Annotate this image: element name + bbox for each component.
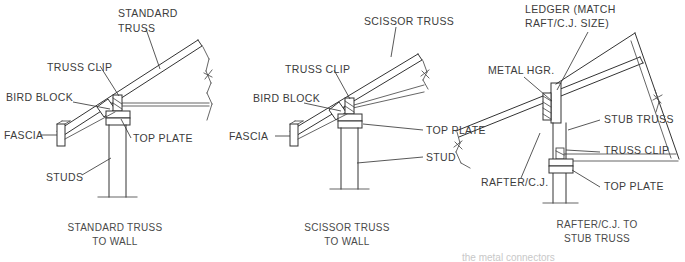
fascia-shape bbox=[57, 121, 70, 146]
label-scissor-truss: SCISSOR TRUSS bbox=[364, 15, 454, 27]
label-bird-block: BIRD BLOCK bbox=[253, 92, 320, 104]
truss-clip-shape bbox=[556, 148, 564, 159]
scissor-truss-break-line bbox=[421, 61, 429, 89]
label-ledger-line1: LEDGER (MATCH bbox=[525, 3, 616, 15]
caption-standard-truss-line2: TO WALL bbox=[92, 236, 138, 247]
label-stud: STUD bbox=[426, 151, 456, 163]
caption-scissor-truss-line2: TO WALL bbox=[324, 236, 370, 247]
label-top-plate: TOP PLATE bbox=[604, 180, 664, 192]
label-truss-clip: TRUSS CLIP bbox=[285, 63, 350, 75]
panel-standard-truss-to-wall: STANDARD TRUSS TRUSS CLIP BIRD BLOCK FAS… bbox=[4, 7, 212, 247]
clipped-footer-text: the metal connectors bbox=[462, 252, 555, 262]
label-stub-truss: STUB TRUSS bbox=[604, 113, 674, 125]
wall-stud-shape bbox=[330, 128, 369, 189]
label-truss-clip: TRUSS CLIP bbox=[47, 61, 112, 73]
label-metal-hgr: METAL HGR. bbox=[488, 64, 555, 76]
caption-rafter-cj-line2: STUB TRUSS bbox=[564, 233, 630, 244]
top-plate-shape bbox=[549, 159, 573, 173]
panel-rafter-cj-to-stub-truss: LEDGER (MATCH RAFT/C.J. SIZE) METAL HGR.… bbox=[454, 3, 679, 244]
label-fascia: FASCIA bbox=[229, 130, 268, 142]
detail-drawing-canvas: STANDARD TRUSS TRUSS CLIP BIRD BLOCK FAS… bbox=[0, 0, 685, 262]
footer-clipped-line: the metal connectors bbox=[462, 252, 555, 262]
top-plate-shape bbox=[106, 111, 130, 125]
rafter-break-line bbox=[454, 132, 470, 168]
top-plate-shape bbox=[338, 114, 362, 128]
label-truss-clip: TRUSS CLIP bbox=[604, 144, 669, 156]
label-ledger-line2: RAFT/C.J. SIZE) bbox=[525, 17, 609, 29]
label-standard-truss-line2: TRUSS bbox=[118, 22, 155, 34]
standard-truss-break-line bbox=[203, 47, 212, 120]
label-fascia: FASCIA bbox=[4, 129, 43, 141]
caption-standard-truss-line1: STANDARD TRUSS bbox=[68, 222, 163, 233]
label-studs: STUDS bbox=[46, 171, 83, 183]
panel-scissor-truss-to-wall: SCISSOR TRUSS TRUSS CLIP BIRD BLOCK FASC… bbox=[229, 15, 486, 247]
truss-clip-shape bbox=[113, 95, 122, 111]
label-top-plate: TOP PLATE bbox=[133, 132, 193, 144]
wall-studs-shape bbox=[98, 125, 137, 197]
caption-scissor-truss-line1: SCISSOR TRUSS bbox=[304, 222, 389, 233]
label-standard-truss-line1: STANDARD bbox=[118, 7, 178, 19]
truss-clip-shape bbox=[345, 98, 354, 114]
caption-rafter-cj-line1: RAFTER/C.J. TO bbox=[556, 219, 637, 230]
label-bird-block: BIRD BLOCK bbox=[6, 91, 73, 103]
detail-drawing-sheet: STANDARD TRUSS TRUSS CLIP BIRD BLOCK FAS… bbox=[0, 0, 685, 262]
ledger-shape bbox=[551, 83, 561, 123]
label-rafter-cj: RAFTER/C.J. bbox=[481, 176, 548, 188]
